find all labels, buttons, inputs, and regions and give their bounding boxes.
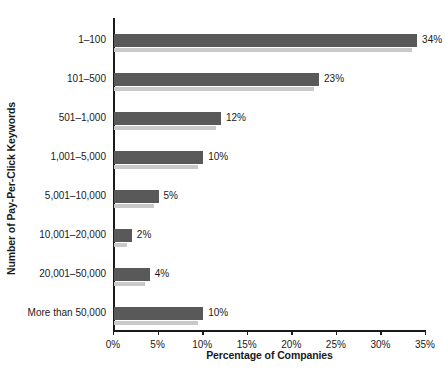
bar xyxy=(114,190,159,203)
category-label: 10,001–20,000 xyxy=(0,228,106,242)
category-label: 1–100 xyxy=(0,33,106,47)
bar-shadow xyxy=(114,204,154,208)
bar-shadow xyxy=(114,87,314,91)
bar-value-label: 2% xyxy=(137,228,151,242)
bar-value-label: 12% xyxy=(226,111,246,125)
bar-value-label: 34% xyxy=(422,33,442,47)
category-label: 20,001–50,000 xyxy=(0,267,106,281)
bar-chart: Number of Pay-Per-Click Keywords 1–10010… xyxy=(0,0,445,377)
bar xyxy=(114,112,221,125)
category-label: 101–500 xyxy=(0,72,106,86)
category-label: 5,001–10,000 xyxy=(0,189,106,203)
bar-shadow xyxy=(114,48,412,52)
category-label: 501–1,000 xyxy=(0,111,106,125)
bar xyxy=(114,229,132,242)
x-tick-mark xyxy=(202,330,203,335)
bar-value-label: 23% xyxy=(324,72,344,86)
bar-value-label: 4% xyxy=(155,267,169,281)
x-axis-title: Percentage of Companies xyxy=(113,349,426,361)
bar-shadow xyxy=(114,126,216,130)
bar-value-label: 10% xyxy=(208,306,228,320)
bar-shadow xyxy=(114,165,198,169)
bar-shadow xyxy=(114,243,127,247)
bar xyxy=(114,34,417,47)
bar xyxy=(114,268,150,281)
x-tick-mark xyxy=(380,330,381,335)
x-tick-mark xyxy=(247,330,248,335)
plot-area: 34%23%12%10%5%2%4%10%0%5%10%15%20%25%30%… xyxy=(113,18,425,330)
x-tick-mark xyxy=(113,330,114,335)
category-label: 1,001–5,000 xyxy=(0,150,106,164)
x-tick-mark xyxy=(291,330,292,335)
category-label: More than 50,000 xyxy=(0,306,106,320)
x-tick-mark xyxy=(336,330,337,335)
bar-value-label: 5% xyxy=(164,189,178,203)
bar xyxy=(114,73,319,86)
bar-value-label: 10% xyxy=(208,150,228,164)
bar-shadow xyxy=(114,321,198,325)
bar xyxy=(114,151,203,164)
x-tick-mark xyxy=(425,330,426,335)
bar xyxy=(114,307,203,320)
x-tick-mark xyxy=(158,330,159,335)
x-axis-line xyxy=(113,330,426,332)
bar-shadow xyxy=(114,282,145,286)
